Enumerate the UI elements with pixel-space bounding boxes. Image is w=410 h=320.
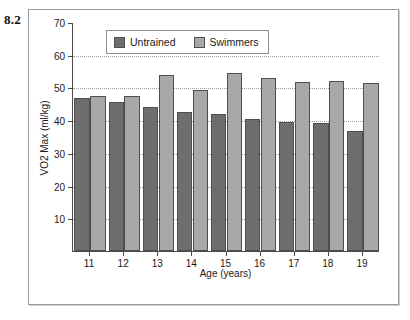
x-axis-tick-mark xyxy=(226,252,227,256)
bar-untrained-age-18 xyxy=(313,123,328,251)
x-axis-tick-mark xyxy=(191,252,192,256)
bar-swimmers-age-16 xyxy=(261,78,276,251)
bar-swimmers-age-15 xyxy=(227,73,242,251)
y-axis-tick-label: 60 xyxy=(54,50,65,61)
figure-number: 8.2 xyxy=(4,12,21,28)
legend-entry-untrained: Untrained xyxy=(114,36,176,48)
x-axis-tick-mark xyxy=(294,252,295,256)
bars-layer xyxy=(73,23,379,251)
y-axis-tick-label: 30 xyxy=(54,148,65,159)
x-axis-tick-mark xyxy=(328,252,329,256)
bar-untrained-age-13 xyxy=(143,107,158,251)
y-axis-tick-label: 20 xyxy=(54,181,65,192)
y-axis-title-label: VO2 Max (ml/kg) xyxy=(39,100,50,175)
bar-swimmers-age-11 xyxy=(90,96,105,251)
bar-untrained-age-11 xyxy=(74,98,89,251)
bar-swimmers-age-14 xyxy=(193,90,208,251)
x-axis-tick-mark xyxy=(260,252,261,256)
plot-area: 10203040506070 xyxy=(72,23,379,252)
legend-label-swimmers: Swimmers xyxy=(210,36,259,48)
y-axis-tick-label: 70 xyxy=(54,18,65,29)
bar-swimmers-age-19 xyxy=(363,83,378,251)
bar-untrained-age-15 xyxy=(211,114,226,251)
x-axis-tick-mark xyxy=(157,252,158,256)
chart-legend: Untrained Swimmers xyxy=(106,30,269,54)
x-axis-tick-mark xyxy=(123,252,124,256)
bar-untrained-age-16 xyxy=(245,119,260,251)
legend-entry-swimmers: Swimmers xyxy=(194,36,259,48)
bar-swimmers-age-18 xyxy=(329,81,344,251)
y-axis-tick-label: 50 xyxy=(54,83,65,94)
untrained-swatch-icon xyxy=(114,37,125,48)
bar-untrained-age-17 xyxy=(279,122,294,251)
bar-swimmers-age-13 xyxy=(159,75,174,251)
x-axis-title: Age (years) xyxy=(72,268,379,279)
bar-untrained-age-19 xyxy=(347,131,362,251)
swimmers-swatch-icon xyxy=(194,37,205,48)
y-axis-tick-label: 40 xyxy=(54,116,65,127)
bar-untrained-age-14 xyxy=(177,112,192,251)
bar-untrained-age-12 xyxy=(109,102,124,251)
figure-frame: VO2 Max (ml/kg) 10203040506070 111213141… xyxy=(28,9,399,305)
y-axis-tick-label: 10 xyxy=(54,214,65,225)
x-axis-tick-mark xyxy=(362,252,363,256)
x-axis-tick-mark xyxy=(89,252,90,256)
bar-swimmers-age-12 xyxy=(124,96,139,251)
y-axis-title: VO2 Max (ml/kg) xyxy=(37,23,51,252)
legend-label-untrained: Untrained xyxy=(130,36,176,48)
bar-swimmers-age-17 xyxy=(295,82,310,251)
